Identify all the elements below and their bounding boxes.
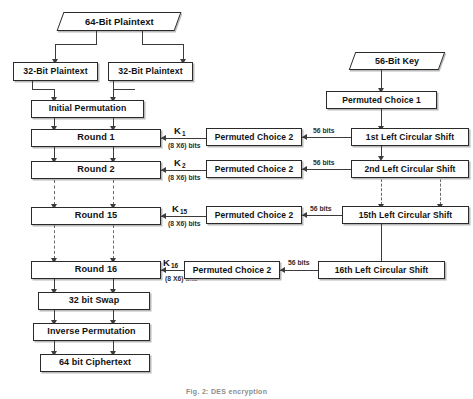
arrowhead-shift2-to-pc2 [302, 166, 307, 172]
node-permuted-choice-2-round-15-label: Permuted Choice 2 [215, 211, 294, 220]
node-16th-left-circular-shift: 16th Left Circular Shift [318, 261, 445, 279]
arrowhead-shift1-to-pc2 [302, 134, 307, 140]
connector-shift16-to-pc2 [280, 270, 318, 271]
node-64-bit-ciphertext-label: 64 bit Ciphertext [59, 358, 131, 367]
label-subkey-k15: K15 [172, 204, 186, 214]
connector-plaintext-stem-left [96, 31, 97, 44]
connector-plaintext-stem-right [142, 31, 143, 44]
node-16th-left-circular-shift-label: 16th Left Circular Shift [335, 266, 429, 275]
node-64-bit-plaintext-label: 64-Bit Plaintext [85, 16, 154, 27]
connector-rounds-ellipsis-right [113, 180, 114, 205]
node-inverse-permutation-label: Inverse Permutation [47, 327, 135, 336]
figure-caption: Fig. 2: DES encryption [186, 388, 267, 395]
connector-k2-into-round2 [161, 170, 206, 171]
connector-shift15-to-shift16 [381, 224, 382, 261]
node-round-1: Round 1 [31, 129, 161, 147]
node-1st-left-circular-shift: 1st Left Circular Shift [351, 128, 469, 146]
node-permuted-choice-1: Permuted Choice 1 [326, 91, 437, 109]
label-56-bits-round-1: 56 bits [313, 128, 335, 135]
connector-key-to-pc1 [381, 70, 382, 89]
connector-plaintext-branch-right [142, 44, 184, 45]
node-32-bit-plaintext-right-label: 32-Bit Plaintext [118, 67, 182, 76]
connector-shift1-to-pc2 [302, 137, 351, 138]
label-subkey-k16: K16 [163, 258, 177, 268]
node-round-2: Round 2 [31, 161, 161, 179]
connector-round15-to-round16-right [113, 225, 114, 259]
node-32-bit-plaintext-left-label: 32-Bit Plaintext [23, 67, 87, 76]
connector-plaintext-drop-left [55, 44, 56, 60]
connector-right-half-across [113, 89, 135, 90]
label-56-bits-round-2: 56 bits [313, 160, 335, 167]
node-32-bit-swap-label: 32 bit Swap [69, 296, 120, 305]
node-initial-permutation-label: Initial Permutation [49, 104, 127, 113]
node-permuted-choice-1-label: Permuted Choice 1 [342, 96, 421, 105]
node-round-15-label: Round 15 [75, 211, 118, 221]
node-round-16-label: Round 16 [75, 265, 118, 275]
arrowhead-k1-into-round1 [161, 135, 166, 141]
connector-shift15-to-pc2 [302, 215, 342, 216]
label-56-bits-round-16: 56 bits [288, 260, 310, 267]
arrowhead-shift16-to-pc2 [280, 267, 285, 273]
node-permuted-choice-2-round-15: Permuted Choice 2 [206, 206, 302, 224]
label-k15-width: (8 X6) bits [168, 221, 200, 228]
node-round-16: Round 16 [31, 261, 161, 279]
node-permuted-choice-2-round-1-label: Permuted Choice 2 [215, 133, 294, 142]
connector-left-half-across [32, 89, 54, 90]
node-inverse-permutation: Inverse Permutation [33, 323, 150, 341]
node-permuted-choice-2-round-2: Permuted Choice 2 [206, 160, 302, 178]
label-subkey-k1: K1 [174, 126, 185, 136]
node-15th-left-circular-shift-label: 15th Left Circular Shift [359, 211, 453, 220]
connector-plaintext-drop-right [183, 44, 184, 60]
node-round-2-label: Round 2 [77, 165, 114, 175]
node-64-bit-ciphertext: 64 bit Ciphertext [40, 354, 150, 372]
node-56-bit-key-label: 56-Bit Key [375, 56, 419, 66]
node-56-bit-key: 56-Bit Key [349, 52, 446, 70]
node-1st-left-circular-shift-label: 1st Left Circular Shift [366, 133, 454, 142]
node-permuted-choice-2-round-2-label: Permuted Choice 2 [215, 165, 294, 174]
node-permuted-choice-2-round-16-label: Permuted Choice 2 [193, 266, 272, 275]
connector-round15-to-round16-left [54, 225, 55, 259]
arrowhead-k2-into-round2 [161, 167, 166, 173]
connector-k15-into-round15 [161, 216, 206, 217]
connector-shifts-ellipsis-right [440, 179, 441, 205]
node-32-bit-plaintext-right: 32-Bit Plaintext [108, 62, 193, 81]
arrowhead-k15-into-round15 [161, 213, 166, 219]
label-56-bits-round-15: 56 bits [310, 206, 332, 213]
node-initial-permutation: Initial Permutation [31, 100, 144, 118]
des-encryption-diagram: 64-Bit Plaintext 32-Bit Plaintext 32-Bit… [0, 0, 473, 399]
node-64-bit-plaintext: 64-Bit Plaintext [57, 12, 182, 31]
node-15th-left-circular-shift: 15th Left Circular Shift [342, 206, 469, 224]
connector-plaintext-branch-left [55, 44, 97, 45]
label-k2-width: (8 X6) bits [168, 175, 200, 182]
connector-left-half-down [32, 81, 33, 89]
node-2nd-left-circular-shift-label: 2nd Left Circular Shift [364, 165, 455, 174]
label-subkey-k2: K2 [174, 158, 185, 168]
connector-shift2-to-pc2 [302, 169, 351, 170]
connector-shifts-ellipsis-left [381, 179, 382, 205]
node-32-bit-plaintext-left: 32-Bit Plaintext [13, 62, 98, 81]
connector-pc1-to-shift1 [381, 109, 382, 127]
node-round-1-label: Round 1 [77, 133, 114, 143]
node-permuted-choice-2-round-1: Permuted Choice 2 [206, 128, 302, 146]
node-round-15: Round 15 [31, 207, 161, 225]
connector-rounds-ellipsis-left [54, 180, 55, 205]
connector-right-half-down [113, 81, 114, 89]
label-k1-width: (8 X6) bits [168, 143, 200, 150]
connector-k1-into-round1 [161, 138, 206, 139]
node-32-bit-swap: 32 bit Swap [38, 292, 150, 310]
node-2nd-left-circular-shift: 2nd Left Circular Shift [351, 160, 469, 178]
node-permuted-choice-2-round-16: Permuted Choice 2 [184, 261, 280, 279]
arrowhead-shift15-to-pc2 [302, 212, 307, 218]
